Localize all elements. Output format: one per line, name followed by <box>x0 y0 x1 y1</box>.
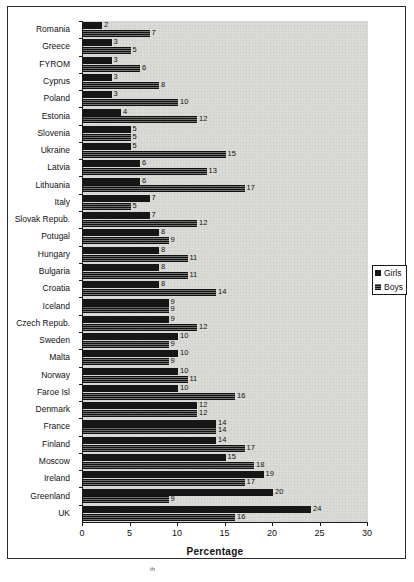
bar-value-boys: 16 <box>237 392 245 400</box>
chart-legend: Girls Boys <box>372 265 407 295</box>
bar-girls <box>83 143 131 150</box>
bar-girls <box>83 420 216 427</box>
bar-row: Slovak Repub.712 <box>8 211 414 228</box>
bar-value-boys: 5 <box>133 202 137 210</box>
bar-boys <box>83 272 188 279</box>
bar-value-girls: 14 <box>218 436 226 444</box>
x-tick-label: 5 <box>127 528 132 538</box>
bar-value-girls: 3 <box>114 90 118 98</box>
category-label: Malta <box>49 353 70 362</box>
bar-value-girls: 10 <box>180 367 188 375</box>
bar-row: Croatia814 <box>8 280 414 297</box>
category-label: Bulgaria <box>39 267 70 276</box>
bar-boys <box>83 341 169 348</box>
bar-row: Moscow1518 <box>8 453 414 470</box>
bar-value-girls: 2 <box>104 21 108 29</box>
bar-boys <box>83 479 245 486</box>
bar-girls <box>83 160 140 167</box>
bar-value-boys: 14 <box>218 426 226 434</box>
bar-boys <box>83 324 197 331</box>
category-label: Greece <box>42 42 70 51</box>
category-label: UK <box>58 509 70 518</box>
bar-girls <box>83 402 197 409</box>
figure-frame: Romania27Greece35FYROM36Cyprus38Poland31… <box>7 6 406 559</box>
bar-boys <box>83 203 131 210</box>
bar-boys <box>83 82 159 89</box>
bar-row: Lithuania617 <box>8 176 414 193</box>
x-axis-title: Percentage <box>8 546 414 557</box>
bar-row: Latvia613 <box>8 159 414 176</box>
category-label: Ireland <box>44 474 70 483</box>
category-label: Italy <box>54 198 70 207</box>
bar-value-girls: 24 <box>313 505 321 513</box>
category-label: Cyprus <box>43 77 70 86</box>
x-tick-label: 0 <box>79 528 84 538</box>
bar-girls <box>83 126 131 133</box>
bar-value-boys: 10 <box>180 98 188 106</box>
bar-girls <box>83 195 150 202</box>
bar-row: Sweden109 <box>8 332 414 349</box>
bar-row: Poland310 <box>8 90 414 107</box>
bar-girls <box>83 437 216 444</box>
bar-boys <box>83 514 235 521</box>
bar-value-boys: 8 <box>161 81 165 89</box>
bar-girls <box>83 489 273 496</box>
bar-row: Ukraine515 <box>8 142 414 159</box>
bar-row: UK2416 <box>8 505 414 522</box>
bar-boys <box>83 99 178 106</box>
bar-girls <box>83 109 121 116</box>
bar-value-girls: 6 <box>142 177 146 185</box>
bar-row: Ireland1917 <box>8 470 414 487</box>
category-label: Estonia <box>42 112 70 121</box>
bar-boys <box>83 116 197 123</box>
bar-row: Slovenia55 <box>8 125 414 142</box>
category-label: Lithuania <box>35 181 70 190</box>
bar-value-girls: 19 <box>266 470 274 478</box>
bar-boys <box>83 47 131 54</box>
bar-value-boys: 13 <box>209 167 217 175</box>
bar-girls <box>83 454 226 461</box>
bar-girls <box>83 281 159 288</box>
x-tick-label: 20 <box>267 528 277 538</box>
bar-boys <box>83 168 207 175</box>
bar-girls <box>83 39 112 46</box>
bar-boys <box>83 410 197 417</box>
bar-value-girls: 20 <box>275 488 283 496</box>
category-label: Norway <box>41 371 70 380</box>
bar-girls <box>83 57 112 64</box>
bar-row: Denmark1212 <box>8 401 414 418</box>
bar-girls <box>83 212 150 219</box>
bar-value-boys: 9 <box>171 340 175 348</box>
bar-value-boys: 12 <box>199 409 207 417</box>
chart-screenshot: Romania27Greece35FYROM36Cyprus38Poland31… <box>0 0 414 582</box>
bar-row: France1414 <box>8 418 414 435</box>
category-label: Latvia <box>47 163 70 172</box>
bar-rows-container: Romania27Greece35FYROM36Cyprus38Poland31… <box>8 21 414 522</box>
x-tick-mark <box>82 522 83 526</box>
bar-value-boys: 9 <box>171 236 175 244</box>
bar-girls <box>83 91 112 98</box>
bar-boys <box>83 185 245 192</box>
x-tick-mark <box>177 522 178 526</box>
category-label: Sweden <box>39 336 70 345</box>
bar-value-girls: 3 <box>114 73 118 81</box>
bar-boys <box>83 151 226 158</box>
bar-girls <box>83 506 311 513</box>
page-footnote: th <box>150 566 155 577</box>
category-label: France <box>44 422 70 431</box>
bar-value-boys: 5 <box>133 46 137 54</box>
category-label: Greenland <box>30 492 70 501</box>
category-label: Slovak Repub. <box>15 215 70 224</box>
bar-value-boys: 12 <box>199 115 207 123</box>
category-label: Croatia <box>43 284 70 293</box>
bar-row: Faroe Isl1016 <box>8 384 414 401</box>
bar-row: FYROM36 <box>8 56 414 73</box>
bar-value-boys: 18 <box>256 461 264 469</box>
bar-row: Cyprus38 <box>8 73 414 90</box>
legend-label-girls: Girls <box>384 269 401 278</box>
bar-girls <box>83 74 112 81</box>
bar-row: Greece35 <box>8 38 414 55</box>
category-label: Hungary <box>38 250 70 259</box>
bar-boys <box>83 445 245 452</box>
bar-boys <box>83 65 140 72</box>
